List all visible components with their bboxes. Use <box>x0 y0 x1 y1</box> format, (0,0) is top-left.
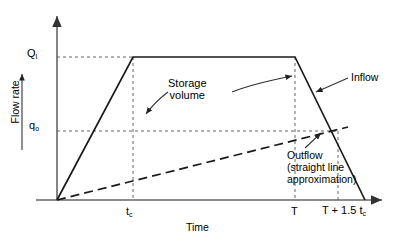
outflow-line-3: approximation) <box>287 174 356 186</box>
hydrograph-figure: QI qo tc T T + 1.5 tc Time Flow rate Sto… <box>0 0 406 242</box>
y-tick-label-qo: qo <box>29 119 39 133</box>
storage-volume-label: Storage volume <box>168 77 207 102</box>
y-axis-title: Flow rate <box>10 71 22 133</box>
outflow-line-1: Outflow <box>287 150 356 162</box>
storage-arrow-right <box>232 76 292 92</box>
x-tick-label-T: T <box>291 205 298 217</box>
x-axis-title: Time <box>186 222 209 234</box>
x-tick-label-T-plus-1-5-tc: T + 1.5 tc <box>322 204 366 218</box>
storage-volume-line-1: Storage <box>168 77 207 89</box>
x-tick-label-tc: tc <box>126 205 133 219</box>
storage-arrow-left <box>146 92 168 114</box>
storage-volume-line-2: volume <box>168 89 207 101</box>
outflow-label: Outflow (straight line approximation) <box>287 150 356 185</box>
inflow-label: Inflow <box>351 72 378 84</box>
y-tick-label-QI: QI <box>27 47 38 61</box>
outflow-leader <box>305 133 321 148</box>
inflow-leader <box>316 78 348 92</box>
outflow-line-2: (straight line <box>287 162 356 174</box>
